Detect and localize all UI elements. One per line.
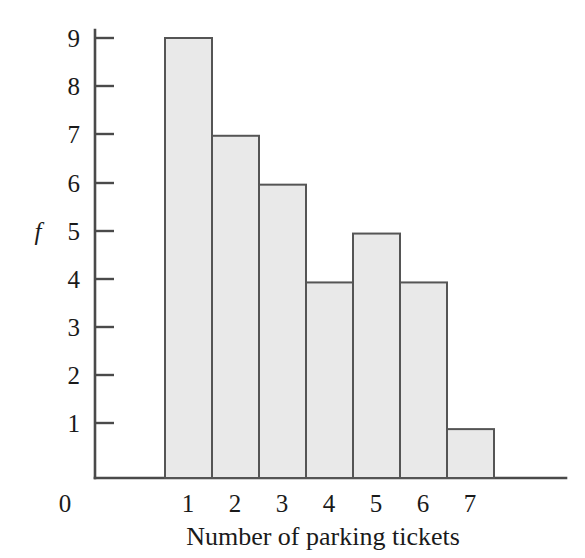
histogram-figure: 9 8 7 6 5 4 3 2 1 f 0 1 2 3 bbox=[0, 0, 585, 558]
x-tick-label-7: 7 bbox=[464, 490, 477, 517]
chart-canvas: 9 8 7 6 5 4 3 2 1 f 0 1 2 3 bbox=[0, 0, 585, 558]
bar-6 bbox=[400, 282, 447, 478]
bar-2 bbox=[212, 136, 259, 478]
y-axis-tick-labels: 9 8 7 6 5 4 3 2 1 bbox=[68, 25, 81, 437]
bars-group bbox=[165, 38, 494, 478]
x-axis-caption: Number of parking tickets bbox=[186, 522, 460, 551]
y-tick-label-3: 3 bbox=[68, 314, 81, 341]
bar-5 bbox=[353, 234, 400, 478]
x-axis-tick-labels: 1 2 3 4 5 6 7 bbox=[182, 490, 477, 517]
x-tick-label-3: 3 bbox=[276, 490, 289, 517]
x-tick-label-2: 2 bbox=[229, 490, 242, 517]
y-tick-label-9: 9 bbox=[68, 25, 81, 52]
bar-4 bbox=[306, 282, 353, 478]
x-axis-origin-label: 0 bbox=[59, 490, 72, 517]
bar-1 bbox=[165, 38, 212, 478]
x-tick-label-6: 6 bbox=[417, 490, 430, 517]
y-tick-label-7: 7 bbox=[68, 121, 81, 148]
y-axis-title: f bbox=[35, 218, 45, 245]
x-tick-label-4: 4 bbox=[323, 490, 336, 517]
y-tick-label-6: 6 bbox=[68, 170, 81, 197]
x-tick-label-5: 5 bbox=[370, 490, 383, 517]
y-tick-label-5: 5 bbox=[68, 218, 81, 245]
bar-7 bbox=[447, 429, 494, 478]
y-tick-label-4: 4 bbox=[68, 266, 81, 293]
y-axis-ticks bbox=[95, 38, 114, 423]
y-tick-label-2: 2 bbox=[68, 362, 81, 389]
x-tick-label-1: 1 bbox=[182, 490, 195, 517]
y-tick-label-1: 1 bbox=[68, 410, 81, 437]
y-tick-label-8: 8 bbox=[68, 73, 81, 100]
bar-3 bbox=[259, 185, 306, 478]
